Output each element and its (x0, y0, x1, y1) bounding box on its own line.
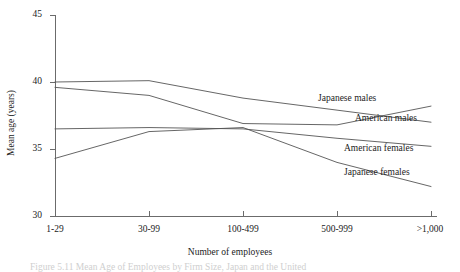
x-tick-label-30-99: 30-99 (119, 225, 179, 235)
series-label-japanese-females: Japanese females (344, 167, 410, 177)
x-tick-label-1-29: 1-29 (25, 225, 85, 235)
series-line-japanese-females (55, 128, 431, 187)
x-tick-label-500-999: 500-999 (304, 225, 370, 235)
figure-caption: Figure 5.11 Mean Age of Employees by Fir… (30, 262, 440, 272)
y-tick-label-45: 45 (16, 10, 42, 20)
x-axis-title: Number of employees (0, 247, 460, 257)
x-tick-label-over-1000: >1,000 (401, 225, 459, 235)
y-axis-title: Mean age (years) (6, 68, 16, 178)
series-label-american-males: American males (355, 113, 417, 123)
x-tick-label-100-499: 100-499 (210, 225, 276, 235)
y-tick-label-35: 35 (16, 144, 42, 154)
series-label-american-females: American females (344, 143, 413, 153)
y-tick-label-30: 30 (16, 211, 42, 221)
y-tick-label-40: 40 (16, 77, 42, 87)
series-label-japanese-males: Japanese males (318, 93, 376, 103)
